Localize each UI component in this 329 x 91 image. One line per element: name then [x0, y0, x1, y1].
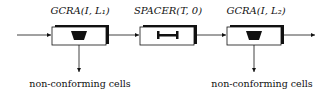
cell-flow-diagram: GCRA(I, L₁) SPACER(T, 0) GCRA(I, L₂) non…	[0, 0, 329, 91]
spacer-block-label: SPACER(T, 0)	[134, 5, 202, 16]
gcra-block-1-label: GCRA(I, L₁)	[50, 5, 109, 16]
gcra-block-2-label: GCRA(I, L₂)	[226, 5, 285, 16]
gcra-block-1: GCRA(I, L₁)	[50, 5, 109, 45]
non-conforming-caption-1: non-conforming cells	[29, 78, 130, 89]
spacer-block: SPACER(T, 0)	[134, 5, 202, 45]
gcra-block-2: GCRA(I, L₂)	[226, 5, 285, 45]
non-conforming-caption-2: non-conforming cells	[211, 78, 312, 89]
